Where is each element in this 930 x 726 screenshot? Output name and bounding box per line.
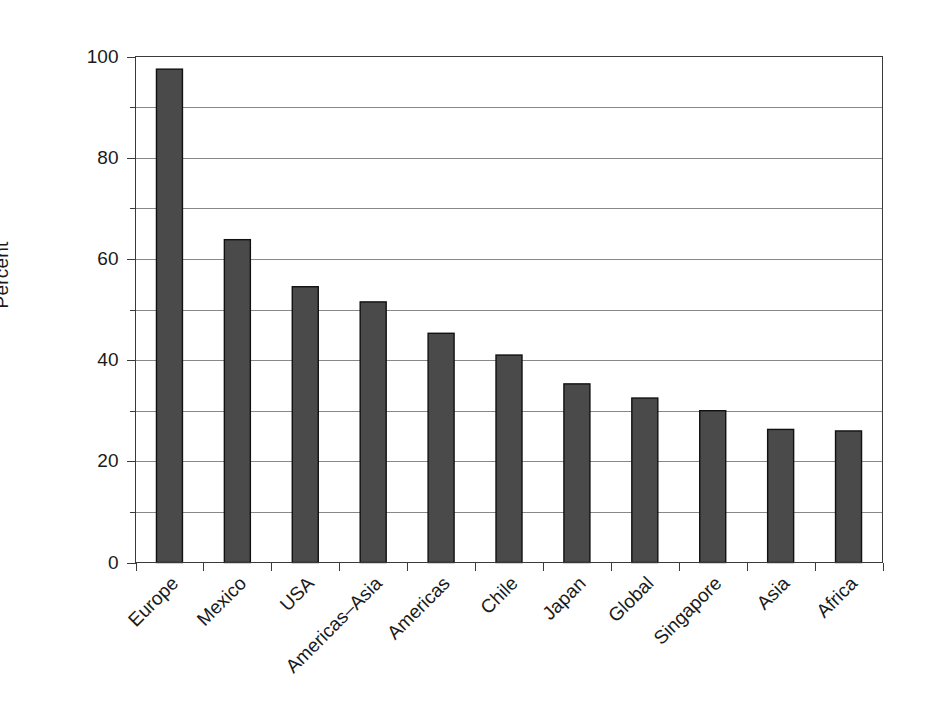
x-axis-category-label: USA <box>276 572 319 615</box>
x-axis-labels-group: EuropeMexicoUSAAmericas–AsiaAmericasChil… <box>124 572 862 677</box>
bar-chart: Percent 020406080100 EuropeMexicoUSAAmer… <box>0 0 930 726</box>
y-axis-tick-label: 20 <box>97 450 118 471</box>
bar <box>224 240 250 563</box>
bar <box>700 411 726 563</box>
y-axis-labels-group: 020406080100 <box>87 46 119 573</box>
y-axis-ticks-group <box>127 58 136 564</box>
x-axis-category-label: Europe <box>124 572 182 630</box>
bar <box>768 429 794 562</box>
y-axis-tick-label: 60 <box>97 248 118 269</box>
bar <box>428 333 454 562</box>
y-axis-tick-label: 0 <box>108 552 119 573</box>
x-axis-category-label: Global <box>604 572 658 626</box>
bar <box>292 287 318 563</box>
x-axis-category-label: Chile <box>476 572 521 617</box>
bar <box>360 302 386 563</box>
x-axis-ticks-group <box>137 563 884 571</box>
y-axis-tick-label: 40 <box>97 349 118 370</box>
bar <box>496 355 522 562</box>
bar <box>836 431 862 563</box>
x-axis-category-label: Singapore <box>649 572 725 648</box>
x-axis-category-label: Mexico <box>193 572 250 629</box>
bar <box>632 398 658 562</box>
plot-area: 020406080100 EuropeMexicoUSAAmericas–Asi… <box>0 0 930 726</box>
x-axis-category-label: Japan <box>538 572 589 623</box>
x-axis-category-label: Americas <box>383 572 454 643</box>
bar <box>156 69 182 562</box>
bars-group <box>156 69 861 562</box>
x-axis-category-label: Asia <box>752 572 793 613</box>
x-axis-category-label: Africa <box>812 572 861 621</box>
bar <box>564 384 590 563</box>
y-axis-tick-label: 100 <box>87 46 119 67</box>
y-axis-tick-label: 80 <box>97 147 118 168</box>
